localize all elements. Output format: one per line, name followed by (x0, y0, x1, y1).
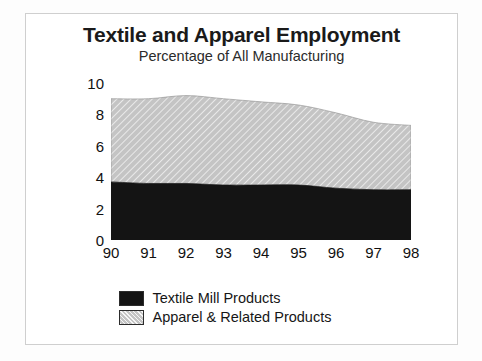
x-axis-tick-label: 96 (328, 245, 345, 260)
y-axis-tick-label: 0 (70, 233, 104, 248)
x-axis-tick-label: 98 (403, 245, 420, 260)
chart-frame: Textile and Apparel Employment Percentag… (25, 13, 458, 345)
x-axis-tick-label: 97 (365, 245, 382, 260)
chart-legend: Textile Mill ProductsApparel & Related P… (26, 291, 457, 325)
x-axis-tick-label: 95 (290, 245, 307, 260)
series-area-apparel (111, 96, 411, 190)
x-axis-tick-label: 91 (140, 245, 157, 260)
x-axis-tick-label: 90 (103, 245, 120, 260)
legend-swatch-icon (119, 291, 144, 306)
title-block: Textile and Apparel Employment Percentag… (26, 24, 457, 64)
y-axis-tick-label: 10 (70, 76, 104, 91)
legend-swatch-icon (119, 310, 144, 325)
legend-item[interactable]: Textile Mill Products (119, 291, 365, 306)
x-axis-tick-label: 93 (215, 245, 232, 260)
chart-title: Textile and Apparel Employment (26, 24, 457, 46)
x-axis-tick-label: 92 (178, 245, 195, 260)
x-axis: 909192939495969798 (111, 245, 411, 265)
y-axis-tick-label: 4 (70, 170, 104, 185)
legend-item-label: Textile Mill Products (153, 291, 281, 306)
y-axis-tick-label: 2 (70, 201, 104, 216)
series-area-textile (111, 182, 411, 240)
x-axis-tick-label: 94 (253, 245, 270, 260)
chart-subtitle: Percentage of All Manufacturing (26, 49, 457, 64)
y-axis-tick-label: 6 (70, 138, 104, 153)
legend-item[interactable]: Apparel & Related Products (119, 310, 365, 325)
legend-item-label: Apparel & Related Products (153, 310, 332, 325)
plot-area (111, 83, 411, 240)
area-chart: Textile and Apparel Employment Percentag… (26, 14, 457, 344)
y-axis-tick-label: 8 (70, 107, 104, 122)
plot-svg (111, 83, 411, 240)
y-axis: 0246810 (66, 83, 104, 240)
